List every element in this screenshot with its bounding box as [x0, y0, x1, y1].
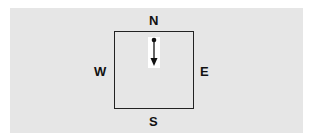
arrow-down-icon: [148, 36, 160, 70]
label-west: W: [94, 65, 106, 78]
label-north: N: [149, 14, 158, 27]
label-south: S: [149, 115, 158, 128]
label-east: E: [200, 65, 209, 78]
